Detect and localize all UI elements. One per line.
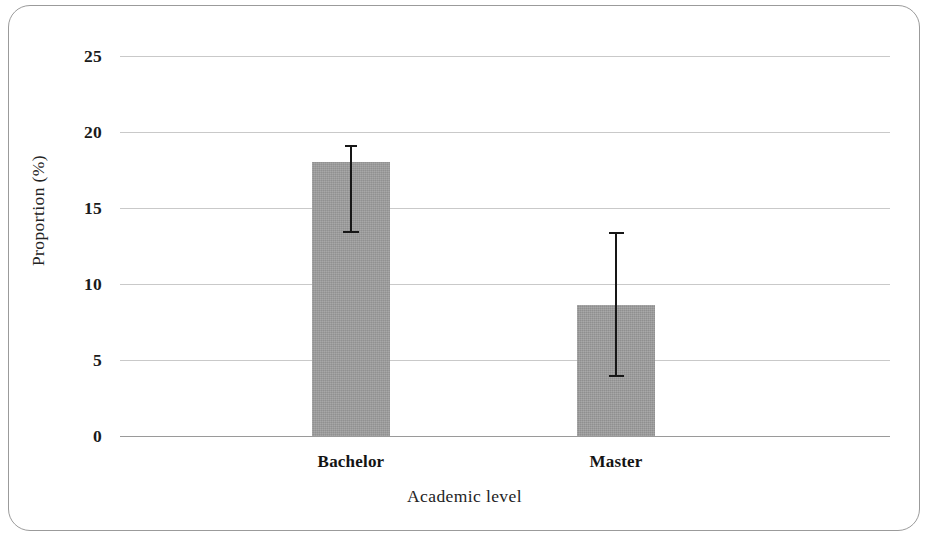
x-axis-line: [120, 436, 890, 437]
plot-area: [120, 56, 890, 436]
gridline-15: [120, 208, 890, 209]
gridline-25: [120, 56, 890, 57]
error-bar-upper-cap-master: [609, 232, 624, 234]
error-bar-upper-cap-bachelor: [345, 145, 357, 147]
y-tick-label-0: 0: [38, 426, 102, 447]
y-tick-label-15: 15: [38, 198, 102, 219]
y-tick-label-10: 10: [38, 274, 102, 295]
error-bar-line-master: [615, 232, 617, 377]
gridline-20: [120, 132, 890, 133]
x-tick-label-master: Master: [589, 452, 642, 472]
y-tick-label-20: 20: [38, 122, 102, 143]
gridline-10: [120, 284, 890, 285]
error-bar-lower-cap-bachelor: [343, 231, 359, 233]
error-bar-line-bachelor: [350, 145, 352, 233]
y-tick-label-5: 5: [38, 350, 102, 371]
y-tick-label-25: 25: [38, 46, 102, 67]
x-tick-label-bachelor: Bachelor: [318, 452, 385, 472]
error-bar-lower-cap-master: [609, 375, 624, 377]
gridline-5: [120, 360, 890, 361]
figure-root: Proportion (%) 25 20 15 10 5 0 Bachelor …: [0, 0, 929, 543]
x-axis-title: Academic level: [0, 486, 929, 507]
